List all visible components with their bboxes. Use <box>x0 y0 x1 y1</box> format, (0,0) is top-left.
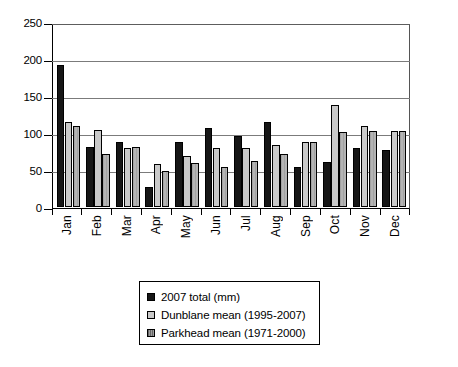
bar-group-jan <box>54 24 84 207</box>
x-label-cell-aug: Aug <box>261 215 291 259</box>
x-label-cell-mar: Mar <box>112 215 142 259</box>
y-tick-label-50: 50 <box>30 166 42 178</box>
bar-group-jul <box>231 24 261 207</box>
legend-label-2: Dunblane mean (1995-2007) <box>161 309 306 321</box>
bar-may-series1 <box>175 142 183 208</box>
bar-mar-series3 <box>132 147 140 208</box>
bar-group-apr <box>142 24 172 207</box>
bar-may-series2 <box>183 156 191 208</box>
bar-may-series3 <box>191 163 199 207</box>
x-axis-labels: JanFebMarAprMayJunJulAugSepOctNovDec <box>52 215 410 259</box>
x-label-cell-jan: Jan <box>52 215 82 259</box>
chart-legend: 2007 total (mm)Dunblane mean (1995-2007)… <box>139 281 320 345</box>
bar-jan-series2 <box>65 122 73 207</box>
legend-item-1: 2007 total (mm) <box>147 288 319 306</box>
bar-feb-series1 <box>86 147 94 208</box>
x-tick-label-sep: Sep <box>300 215 312 237</box>
bar-group-dec <box>379 24 409 207</box>
bar-mar-series2 <box>124 148 132 207</box>
legend-label-1: 2007 total (mm) <box>161 291 240 303</box>
legend-item-2: Dunblane mean (1995-2007) <box>147 306 319 324</box>
bar-group-aug <box>261 24 291 207</box>
y-tick-mark-150 <box>44 98 52 99</box>
x-label-cell-nov: Nov <box>350 215 380 259</box>
bar-feb-series3 <box>102 154 110 207</box>
x-tick-label-dec: Dec <box>389 215 401 237</box>
x-label-cell-apr: Apr <box>141 215 171 259</box>
legend-label-3: Parkhead mean (1971-2000) <box>161 327 306 339</box>
y-tick-label-200: 200 <box>23 55 42 67</box>
x-label-cell-may: May <box>171 215 201 259</box>
bar-apr-series1 <box>145 187 153 207</box>
bar-oct-series3 <box>339 132 347 207</box>
bar-nov-series2 <box>361 126 369 207</box>
bar-group-sep <box>291 24 321 207</box>
x-label-cell-sep: Sep <box>291 215 321 259</box>
bar-feb-series2 <box>94 130 102 208</box>
bar-dec-series2 <box>391 131 399 207</box>
bar-jun-series3 <box>221 167 229 207</box>
bar-jul-series1 <box>234 136 242 207</box>
bar-group-feb <box>83 24 113 207</box>
bar-dec-series3 <box>399 131 407 207</box>
bar-sep-series1 <box>294 167 302 208</box>
bar-mar-series1 <box>116 142 124 207</box>
y-tick-label-100: 100 <box>23 129 42 141</box>
y-tick-mark-200 <box>44 61 52 62</box>
x-tick-label-aug: Aug <box>270 215 282 237</box>
x-tick-label-jun: Jun <box>210 215 222 235</box>
plot-area <box>52 24 410 209</box>
bar-group-may <box>172 24 202 207</box>
x-label-cell-oct: Oct <box>320 215 350 259</box>
bar-sep-series2 <box>302 142 310 207</box>
y-tick-label-150: 150 <box>23 92 42 104</box>
x-tick-label-nov: Nov <box>359 215 371 237</box>
bar-aug-series3 <box>280 154 288 207</box>
bar-group-nov <box>350 24 380 207</box>
bar-jan-series3 <box>73 126 81 207</box>
bar-jul-series3 <box>251 161 259 208</box>
bar-jun-series2 <box>213 148 221 207</box>
x-tick-label-mar: Mar <box>121 215 133 236</box>
x-label-cell-jun: Jun <box>201 215 231 259</box>
legend-item-3: Parkhead mean (1971-2000) <box>147 324 319 342</box>
x-tick-label-jan: Jan <box>61 215 73 235</box>
bar-aug-series2 <box>272 145 280 208</box>
bar-sep-series3 <box>310 142 318 207</box>
bar-aug-series1 <box>264 122 272 207</box>
bar-group-mar <box>113 24 143 207</box>
y-tick-label-250: 250 <box>23 18 42 30</box>
x-label-cell-feb: Feb <box>82 215 112 259</box>
light-grey-square-icon <box>147 311 155 319</box>
bar-jun-series1 <box>205 128 213 207</box>
x-label-cell-dec: Dec <box>380 215 410 259</box>
hatched-grey-square-icon <box>147 329 155 337</box>
bar-jul-series2 <box>242 148 250 207</box>
x-label-cell-jul: Jul <box>231 215 261 259</box>
bar-apr-series2 <box>154 164 162 208</box>
bar-group-jun <box>202 24 232 207</box>
bar-groups <box>54 24 409 207</box>
x-tick-label-may: May <box>180 215 192 238</box>
monthly-rainfall-bar-chart: 050100150200250 JanFebMarAprMayJunJulAug… <box>0 0 458 367</box>
x-tick-label-jul: Jul <box>240 215 252 231</box>
black-square-icon <box>147 293 155 301</box>
bar-nov-series3 <box>369 131 377 207</box>
bar-dec-series1 <box>382 150 390 207</box>
y-tick-mark-100 <box>44 135 52 136</box>
y-tick-mark-250 <box>44 24 52 25</box>
y-tick-mark-50 <box>44 172 52 173</box>
x-tick-label-feb: Feb <box>91 215 103 236</box>
y-axis: 050100150200250 <box>0 24 52 209</box>
x-tick-label-apr: Apr <box>150 215 162 234</box>
bar-apr-series3 <box>162 171 170 207</box>
bar-oct-series1 <box>323 162 331 208</box>
x-tick-label-oct: Oct <box>329 215 341 234</box>
y-tick-label-0: 0 <box>36 203 42 215</box>
bar-oct-series2 <box>331 105 339 207</box>
bar-jan-series1 <box>57 65 65 208</box>
bar-nov-series1 <box>353 148 361 207</box>
bar-group-oct <box>320 24 350 207</box>
